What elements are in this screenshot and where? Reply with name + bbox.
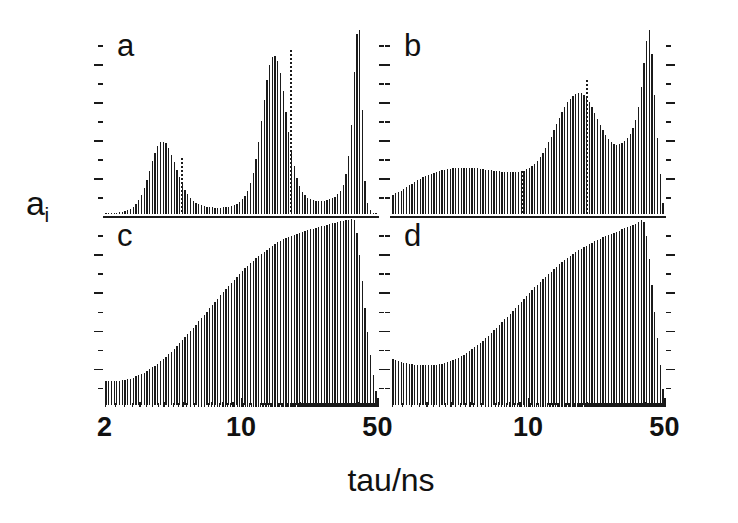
bar [439,364,440,405]
bar [351,219,352,405]
bar [225,207,226,214]
y-axis-tick [666,102,675,104]
bar [463,168,464,215]
bar [414,182,415,214]
bar [212,305,213,405]
bar [354,220,355,405]
bar [236,204,237,214]
bar [154,366,155,406]
bar [359,30,360,214]
y-axis-tick [94,369,103,371]
y-axis-tick [666,292,675,294]
panel-column-left: a c [103,26,379,407]
bar [242,271,243,405]
bar [660,365,661,405]
bar [512,311,513,406]
bar [354,72,355,214]
bar [649,259,650,405]
y-axis-tick [379,235,384,237]
bar [261,254,262,406]
y-axis-tick [379,159,384,161]
bar [559,118,560,215]
bar [231,283,232,406]
bar [578,93,579,214]
bar [168,354,169,405]
bar [190,198,191,214]
bar [466,168,467,215]
bar [411,364,412,405]
y-axis-tick [379,121,384,123]
bar [499,171,500,214]
y-axis-tick [379,350,384,352]
x-axis-tick-label: 50 [649,414,679,441]
bar [272,57,273,215]
y-axis-tick [379,331,388,333]
bar [321,226,322,405]
bar [581,93,582,214]
bar [165,143,166,214]
y-axis-tick [666,178,675,180]
bar [114,213,115,214]
bar [261,121,262,214]
bar [619,144,620,214]
bar [600,239,601,406]
bar [657,138,658,215]
bar [105,381,106,405]
bar [277,61,278,214]
bar [534,287,535,405]
bar [163,359,164,405]
bar [307,230,308,405]
bar [187,194,188,214]
bar [127,379,128,405]
bar [431,174,432,215]
bar [195,325,196,406]
bar [193,328,194,406]
y-axis-tick [666,331,675,333]
bar [375,391,376,405]
bar [455,168,456,214]
bar [643,63,644,214]
bar [433,173,434,215]
y-axis-tick [666,140,675,142]
bar [613,144,614,215]
bar [362,110,363,215]
bar [225,289,226,405]
bar [234,205,235,214]
bar [572,254,573,405]
y-axis-tick [666,388,671,390]
bar [398,192,399,214]
bar [526,296,527,405]
bar [493,171,494,215]
bar [146,180,147,215]
bar [594,241,595,405]
bar [545,148,546,215]
panel-c-plot-area [105,218,378,406]
bar [187,334,188,405]
bar [411,184,412,215]
bar [345,220,346,405]
bar [518,172,519,215]
bar [146,371,147,405]
bar [395,360,396,405]
y-axis-tick [379,140,388,142]
bar [561,262,562,405]
bar [198,321,199,405]
bar [523,299,524,405]
bar [144,373,145,406]
bar [428,175,429,215]
bar [318,201,319,214]
bar [651,54,652,215]
bar [485,338,486,405]
bar [236,277,237,406]
bar [255,159,256,214]
bar [646,41,647,215]
bar [204,315,205,406]
bar [135,204,136,214]
bar [564,107,565,215]
bar [223,292,224,405]
bar [223,207,224,214]
bar [605,135,606,214]
bar [485,170,486,215]
bar [515,172,516,214]
bar [510,172,511,214]
